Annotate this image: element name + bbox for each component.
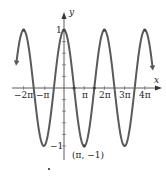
y-axis-arrow-icon — [62, 12, 67, 19]
x-tick-label-3pi: 3π — [119, 90, 131, 100]
curve-left-arrow-icon — [14, 60, 20, 65]
x-axis-label: x — [154, 75, 159, 85]
x-axis-arrow-icon — [155, 86, 162, 91]
x-tick-label-negpi: −π — [36, 90, 50, 100]
point-annotation: (π, −1) — [72, 150, 104, 160]
stray-mark — [48, 168, 50, 170]
y-axis-label: y — [68, 7, 75, 17]
x-tick-label-pi: π — [82, 90, 88, 100]
curve-right-arrow-icon — [150, 65, 156, 70]
y-tick-label-neg1: −1 — [50, 141, 63, 151]
y-tick-label-1: 1 — [56, 25, 62, 35]
x-tick-label-neg2pi: −2π — [14, 90, 33, 100]
x-tick-label-4pi: 4π — [139, 90, 151, 100]
cosine-graph: y x 1 −1 −2π −π π 2π 3π 4π (π, −1) — [0, 0, 166, 176]
x-tick-label-2pi: 2π — [99, 90, 111, 100]
